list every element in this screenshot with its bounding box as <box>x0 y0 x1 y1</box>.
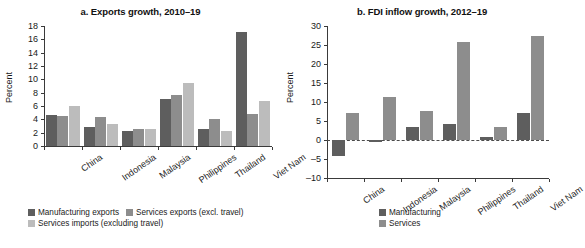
bar <box>133 129 144 146</box>
bar <box>145 129 156 146</box>
bar <box>107 124 118 146</box>
bar <box>247 114 258 146</box>
panel-a-legend: Manufacturing exports Services exports (… <box>28 207 250 229</box>
bar <box>57 116 68 146</box>
legend-item-services: Services <box>379 218 420 229</box>
legend-label-manufacturing-exports: Manufacturing exports <box>38 207 119 218</box>
bar <box>209 119 220 146</box>
legend-swatch-icon-manufacturing <box>379 209 386 216</box>
bar <box>457 42 471 140</box>
bar <box>494 127 508 140</box>
bar <box>122 131 133 146</box>
legend-item-services-imports: Services imports (excluding travel) <box>28 218 163 229</box>
bar <box>420 111 434 140</box>
legend-item-manufacturing: Manufacturing <box>379 207 441 218</box>
bar <box>480 137 494 140</box>
bar <box>236 32 247 146</box>
bar <box>221 131 232 146</box>
legend-label-manufacturing: Manufacturing <box>389 207 441 218</box>
bar <box>198 129 209 146</box>
legend-swatch-icon-services <box>379 220 386 227</box>
bar <box>46 115 57 146</box>
bar <box>259 101 270 146</box>
bar <box>346 113 360 140</box>
panel-b-legend-row-1: Manufacturing <box>379 207 448 218</box>
panel-fdi-inflow-growth: b. FDI inflow growth, 2012–19 Percent –1… <box>281 0 563 248</box>
bar <box>443 124 457 140</box>
bar <box>95 117 106 146</box>
legend-swatch-icon-services-imports <box>28 220 35 227</box>
bar <box>84 127 95 146</box>
legend-swatch-icon-services-exports <box>126 209 133 216</box>
panel-exports-growth: a. Exports growth, 2010–19 Percent 02468… <box>0 0 281 248</box>
panel-a-legend-row-2: Services imports (excluding travel) <box>28 218 250 229</box>
legend-label-services-exports: Services exports (excl. travel) <box>136 207 243 218</box>
bar <box>369 140 383 142</box>
bar <box>69 106 80 146</box>
bar <box>171 95 182 146</box>
bar <box>332 140 346 156</box>
bar <box>183 83 194 146</box>
bar <box>517 113 531 140</box>
panel-a-legend-row-1: Manufacturing exports Services exports (… <box>28 207 250 218</box>
legend-item-services-exports: Services exports (excl. travel) <box>126 207 243 218</box>
panel-b-legend: Manufacturing Services <box>379 207 448 229</box>
legend-label-services-imports: Services imports (excluding travel) <box>38 218 163 229</box>
bar <box>383 97 397 140</box>
panel-b-legend-row-2: Services <box>379 218 448 229</box>
bar <box>406 127 420 140</box>
bar <box>160 99 171 146</box>
legend-item-manufacturing-exports: Manufacturing exports <box>28 207 119 218</box>
bar <box>531 36 545 141</box>
legend-label-services: Services <box>389 218 420 229</box>
legend-swatch-icon-manufacturing-exports <box>28 209 35 216</box>
